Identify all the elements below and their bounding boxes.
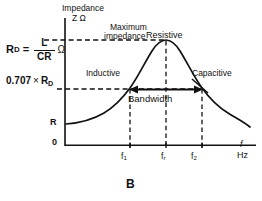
f2-tick-label: f2 [191, 152, 197, 162]
inductive-label: Inductive [86, 69, 120, 78]
equals-sign: = [23, 44, 29, 56]
multiply-sign: × [33, 75, 39, 86]
f2-subscript: 2 [193, 154, 196, 161]
fr-tick-label: fr [161, 152, 165, 162]
origin-label: 0 [52, 138, 57, 147]
figure-caption: B [126, 178, 135, 191]
fraction-numerator: L [38, 38, 50, 49]
bandwidth-label: Bandwidth [128, 94, 172, 104]
rd-fraction: L CR [34, 38, 54, 62]
fr-subscript: r [163, 154, 165, 161]
impedance-frequency-figure: Impedance Z Ω Maximum impedance Resistiv… [0, 0, 262, 201]
x-axis-symbol: f [240, 140, 243, 149]
f1-tick-label: f1 [121, 152, 127, 162]
resistive-label: Resistive [146, 31, 183, 40]
fraction-denominator: CR [34, 52, 54, 63]
impedance-curve [66, 40, 250, 127]
f1-subscript: 1 [123, 154, 126, 161]
half-power-rd-subscript: D [48, 79, 53, 88]
ohm-unit: Ω [58, 45, 65, 56]
max-impedance-label-line2: impedance [104, 32, 146, 41]
y-axis-r-label: R [50, 118, 57, 127]
half-power-formula: 0.707×RD [6, 76, 53, 87]
rd-symbol: R [6, 44, 14, 56]
capacitive-label: Capacitive [192, 69, 232, 78]
x-axis-unit: Hz [237, 151, 248, 160]
rd-formula: RD = L CR Ω [6, 38, 65, 62]
y-axis-unit: Z Ω [72, 14, 86, 23]
rd-subscript: D [14, 46, 20, 54]
half-power-value: 0.707 [6, 75, 31, 86]
y-axis-title: Impedance [62, 4, 104, 13]
